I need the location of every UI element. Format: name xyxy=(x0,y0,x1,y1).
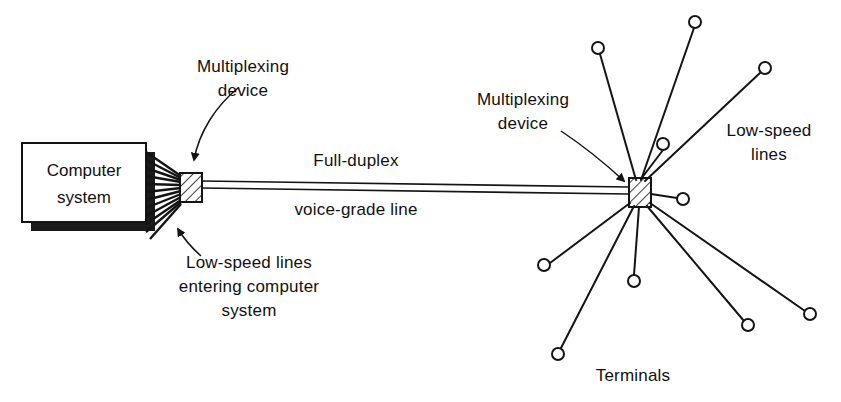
terminal-nodes xyxy=(538,16,816,360)
label-multiplexing-device-left-line2: device xyxy=(218,81,268,100)
label-voice-grade-line: voice-grade line xyxy=(294,200,417,219)
terminal-node[interactable] xyxy=(552,348,564,360)
multiplexing-device-right-arrow xyxy=(561,131,624,181)
terminal-node[interactable] xyxy=(677,193,689,205)
terminal-spoke xyxy=(634,207,639,275)
multiplexer-left-box[interactable] xyxy=(180,173,202,202)
terminal-spoke xyxy=(550,203,630,263)
terminal-node[interactable] xyxy=(804,308,816,320)
multiplexer-left-group[interactable] xyxy=(180,173,202,202)
terminal-spoke xyxy=(600,54,636,180)
computer-system-label-line2: system xyxy=(57,188,111,207)
label-multiplexing-device-right-line1: Multiplexing xyxy=(477,90,569,109)
full-duplex-trunk xyxy=(202,181,629,194)
terminal-spoke xyxy=(650,203,805,311)
label-lowspeed-left-line1: Low-speed lines xyxy=(186,253,312,272)
fan-line xyxy=(146,184,181,185)
terminal-node[interactable] xyxy=(689,16,701,28)
terminal-node[interactable] xyxy=(759,62,771,74)
diagram-text-labels: Multiplexing device Multiplexing device … xyxy=(179,57,812,385)
label-lowspeed-left-line3: system xyxy=(221,301,276,320)
terminal-node[interactable] xyxy=(592,42,604,54)
annotation-arrows xyxy=(178,88,624,256)
lowspeed-left-arrow xyxy=(178,229,201,256)
computer-system-label-line1: Computer xyxy=(47,161,122,180)
computer-system-box[interactable] xyxy=(22,143,146,222)
trunk-line-upper xyxy=(202,181,629,187)
terminal-node[interactable] xyxy=(628,275,640,287)
network-diagram: Computer system xyxy=(0,0,841,402)
diagram-canvas: Computer system xyxy=(0,0,841,402)
trunk-line-lower xyxy=(202,188,629,194)
label-lowspeed-left-line2: entering computer xyxy=(179,277,320,296)
terminal-spoke xyxy=(651,194,677,198)
terminal-spokes xyxy=(550,28,805,348)
terminal-node[interactable] xyxy=(538,259,550,271)
label-lowspeed-right-line2: lines xyxy=(751,145,787,164)
terminal-node[interactable] xyxy=(657,138,669,150)
terminal-spoke xyxy=(647,206,744,321)
computer-system-group: Computer system xyxy=(22,143,155,231)
label-multiplexing-device-left-line1: Multiplexing xyxy=(197,57,289,76)
terminal-spoke xyxy=(641,28,694,180)
label-multiplexing-device-right-line2: device xyxy=(498,114,548,133)
multiplexer-right-group[interactable] xyxy=(629,178,651,207)
multiplexer-right-box[interactable] xyxy=(629,178,651,207)
label-terminals: Terminals xyxy=(596,366,671,385)
terminal-node[interactable] xyxy=(742,319,754,331)
label-full-duplex: Full-duplex xyxy=(313,151,399,170)
label-lowspeed-right-line1: Low-speed xyxy=(727,121,812,140)
